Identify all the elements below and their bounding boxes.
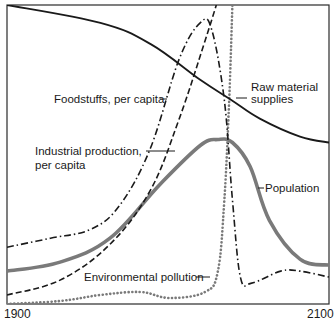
label-foodstuffs: Foodstuffs, per capita: [54, 93, 165, 105]
series-raw-material-supplies: [7, 5, 329, 143]
x-tick-2100: 2100: [307, 307, 334, 321]
limits-to-growth-chart: Foodstuffs, per capita Industrial produc…: [0, 0, 335, 322]
x-tick-1900: 1900: [4, 307, 31, 321]
label-pollution: Environmental pollution: [84, 271, 204, 283]
label-population: Population: [265, 182, 319, 194]
label-raw-line1: Raw material: [251, 81, 318, 93]
label-raw-line2: supplies: [251, 93, 293, 105]
label-industrial-line1: Industrial production,: [35, 145, 142, 157]
label-industrial-line2: per capita: [35, 159, 86, 171]
